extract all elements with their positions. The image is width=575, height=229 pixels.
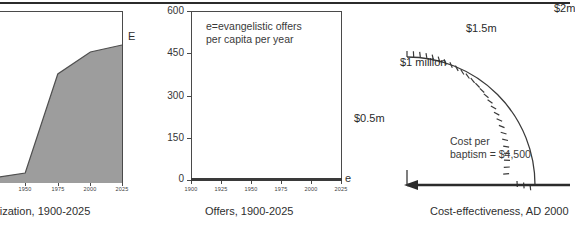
evangelization-xlabel-1950: 1950 bbox=[15, 186, 35, 192]
offers-xlabel-1900: 1900 bbox=[181, 186, 201, 192]
offers-xlabel-1950: 1950 bbox=[241, 186, 261, 192]
offers-xtick-1925 bbox=[221, 181, 222, 184]
offers-xtick-1900 bbox=[191, 181, 192, 184]
offers-ylabel-300: 300 bbox=[156, 90, 184, 101]
cost-arc-label-half-million: $0.5m bbox=[354, 112, 385, 124]
offers-annotation: e=evangelistic offers per capita per yea… bbox=[206, 20, 302, 46]
evangelization-area-svg bbox=[0, 12, 123, 184]
offers-xlabel-1975: 1975 bbox=[271, 186, 291, 192]
cost-arc-label-two-million: $2m bbox=[554, 2, 575, 14]
cost-annotation: Cost per baptism = $4,500 bbox=[450, 135, 531, 161]
offers-ytick-600 bbox=[187, 11, 191, 12]
offers-ytick-150 bbox=[187, 138, 191, 139]
evangelization-xlabel-2025: 2025 bbox=[112, 186, 132, 192]
offers-xtick-2000 bbox=[311, 181, 312, 184]
evangelization-plot-frame bbox=[0, 11, 123, 183]
offers-xtick-1950 bbox=[251, 181, 252, 184]
cost-effectiveness-arc-svg bbox=[340, 0, 570, 200]
evangelization-xlabel-2000: 2000 bbox=[80, 186, 100, 192]
evangelization-xlabel-1925: 1925 bbox=[0, 186, 2, 192]
cost-caption: Cost-effectiveness, AD 2000 bbox=[430, 205, 569, 217]
offers-ylabel-600: 600 bbox=[156, 5, 184, 16]
evangelization-series-label: E bbox=[128, 30, 135, 42]
offers-xlabel-2000: 2000 bbox=[301, 186, 321, 192]
panel-offers: 600 450 300 150 0 e=evangelistic offers … bbox=[160, 0, 350, 229]
panel-cost: $0.5m $1 million $1.5m $2m Cost per bapt… bbox=[340, 0, 570, 229]
offers-ytick-300 bbox=[187, 96, 191, 97]
offers-caption: Offers, 1900-2025 bbox=[205, 205, 293, 217]
offers-series-baseline bbox=[191, 178, 342, 181]
cost-arc-label-one-point-five-million: $1.5m bbox=[466, 22, 497, 34]
cost-arc-label-one-million: $1 million bbox=[400, 56, 446, 68]
cost-arc-curve bbox=[407, 57, 535, 185]
evangelization-xlabel-1975: 1975 bbox=[48, 186, 68, 192]
cost-arc-ticks bbox=[407, 51, 531, 190]
offers-ylabel-450: 450 bbox=[156, 47, 184, 58]
panel-evangelization: E 1900 1925 1950 1975 2000 2025 Evangeli… bbox=[0, 0, 165, 229]
offers-xtick-1975 bbox=[281, 181, 282, 184]
offers-ylabel-150: 150 bbox=[156, 132, 184, 143]
offers-ylabel-0: 0 bbox=[156, 173, 184, 184]
evangelization-area-fill bbox=[0, 45, 122, 183]
offers-ytick-450 bbox=[187, 53, 191, 54]
cost-axis-arrowhead bbox=[404, 180, 418, 190]
evangelization-caption: Evangelization, 1900-2025 bbox=[0, 205, 90, 217]
offers-xlabel-1925: 1925 bbox=[211, 186, 231, 192]
